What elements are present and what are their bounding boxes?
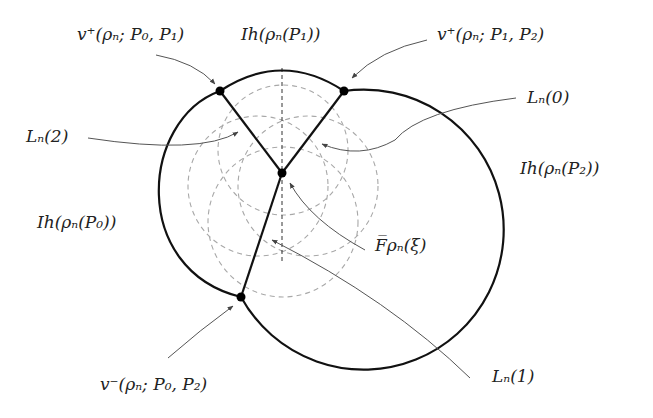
label-Ih-P2: Ih(ρₙ(P₂)) <box>520 160 599 177</box>
label-Ih-P0: Ih(ρₙ(P₀)) <box>37 214 116 231</box>
vertex-v-minus-P0P2 <box>237 293 246 302</box>
leader-L1 <box>272 240 470 378</box>
arc-Ih-P2 <box>241 90 504 370</box>
label-F: F̅ρₙ(ξ) <box>375 237 426 254</box>
leader-L0 <box>322 98 516 151</box>
edge-L2 <box>220 91 282 173</box>
leader-v-minus-P0P2 <box>168 306 233 358</box>
leader-v-plus-P0P1 <box>156 55 215 84</box>
leader-F <box>290 183 365 250</box>
label-L0: Lₙ(0) <box>527 89 569 106</box>
label-Ih-P1: Ih(ρₙ(P₁)) <box>241 26 320 43</box>
vertex-F-center <box>278 169 287 178</box>
edge-L1 <box>241 173 282 297</box>
dashed-circle-top <box>218 85 348 215</box>
label-L1: Lₙ(1) <box>492 368 534 385</box>
label-L2: Lₙ(2) <box>26 128 68 145</box>
edge-L0 <box>282 91 344 173</box>
leader-L2 <box>88 132 238 145</box>
arc-Ih-P1 <box>220 71 344 92</box>
vertex-v-plus-P0P1 <box>216 87 225 96</box>
label-v-plus-P1P2: v⁺(ρₙ; P₁, P₂) <box>437 26 544 43</box>
label-v-plus-P0P1: v⁺(ρₙ; P₀, P₁) <box>77 26 184 43</box>
vertex-v-plus-P1P2 <box>340 87 349 96</box>
label-v-minus-P0P2: v⁻(ρₙ; P₀, P₂) <box>100 376 207 393</box>
diagram-canvas <box>0 0 653 418</box>
dashed-circles <box>188 85 378 297</box>
leader-v-plus-P1P2 <box>352 40 427 78</box>
leader-arrows <box>88 40 516 378</box>
